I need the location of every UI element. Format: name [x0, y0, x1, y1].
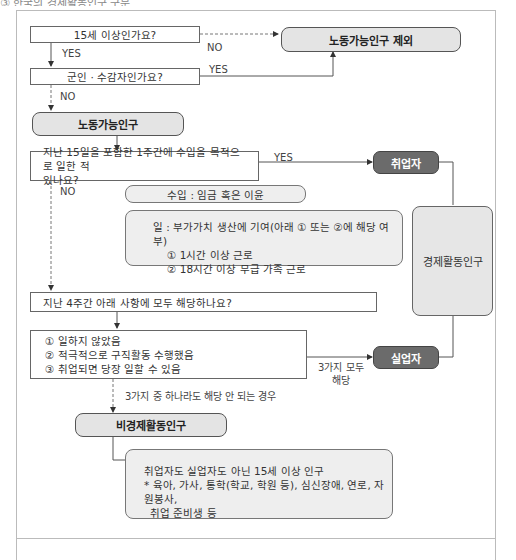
- condition-item: ② 적극적으로 구직활동 수행했음: [45, 348, 194, 362]
- note-income: 수입 : 임금 혹은 이윤: [125, 185, 306, 203]
- note-work: 일 : 부가가치 생산에 기여(아래 ① 또는 ②에 해당 여부) ① 1시간 …: [125, 210, 403, 266]
- note-income-text: 수입 : 임금 혹은 이윤: [167, 187, 264, 202]
- edge-label-all-three-line2: 해당: [318, 374, 364, 387]
- node-unemployed-label: 실업자: [391, 350, 421, 366]
- question-age: 15세 이상인가요?: [30, 26, 200, 43]
- question-worked-line1: 지난 15일을 포함한 1주간에 수입을 목적으로 일한 적: [43, 145, 246, 173]
- edge-label-no: NO: [207, 42, 222, 53]
- question-military-text: 군인 · 수감자인가요?: [67, 69, 163, 84]
- note-not-active-line3: 취업 준비생 등: [144, 506, 392, 520]
- edge-label-no: NO: [60, 91, 75, 102]
- question-worked: 지난 15일을 포함한 1주간에 수입을 목적으로 일한 적 있나요?: [30, 151, 259, 181]
- note-not-active: 취업자도 실업자도 아닌 15세 이상 인구 * 육아, 가사, 통학(학교, …: [125, 449, 393, 519]
- note-work-title: 일 : 부가가치 생산에 기여(아래 ① 또는 ②에 해당 여부): [153, 220, 402, 248]
- note-work-item: ② 18시간 이상 무급 가족 근로: [153, 262, 402, 276]
- condition-item: ③ 취업되면 당장 일할 수 있음: [45, 362, 194, 376]
- node-working-age-label: 노동가능인구: [78, 116, 138, 132]
- edge-label-all-three: 3가지 모두 해당: [318, 361, 364, 387]
- edge-label-yes: YES: [274, 152, 293, 163]
- condition-item: ① 일하지 않았음: [45, 334, 194, 348]
- note-not-active-line2: * 육아, 가사, 통학(학교, 학원 등), 심신장애, 연로, 자원봉사,: [144, 478, 392, 506]
- node-not-active-label: 비경제활동인구: [116, 417, 186, 433]
- node-not-active: 비경제활동인구: [75, 413, 227, 437]
- edge-label-all-three-line1: 3가지 모두: [318, 361, 364, 374]
- edge-label-yes: YES: [62, 48, 81, 59]
- edge-label-no: NO: [60, 186, 75, 197]
- node-economically-active: 경제활동인구: [412, 206, 493, 316]
- question-four-weeks-text: 지난 4주간 아래 사항에 모두 해당하나요?: [43, 295, 232, 310]
- edge-label-none: 3가지 중 하나라도 해당 안 되는 경우: [125, 388, 276, 403]
- node-economically-active-label: 경제활동인구: [423, 253, 483, 269]
- note-work-item: ① 1시간 이상 근로: [153, 248, 402, 262]
- question-four-weeks: 지난 4주간 아래 사항에 모두 해당하나요?: [30, 292, 377, 312]
- node-working-age: 노동가능인구: [32, 112, 184, 136]
- node-excluded-label: 노동가능인구 제외: [329, 32, 413, 48]
- node-employed-label: 취업자: [391, 155, 421, 171]
- question-age-text: 15세 이상인가요?: [74, 27, 156, 42]
- edge-label-yes: YES: [209, 64, 228, 75]
- conditions-box: ① 일하지 않았음 ② 적극적으로 구직활동 수행했음 ③ 취업되면 당장 일할…: [30, 330, 307, 379]
- node-unemployed: 실업자: [373, 346, 439, 369]
- node-excluded: 노동가능인구 제외: [281, 27, 461, 52]
- note-not-active-line1: 취업자도 실업자도 아닌 15세 이상 인구: [144, 464, 392, 478]
- frame-bottom-border: [16, 538, 496, 539]
- node-employed: 취업자: [373, 151, 439, 174]
- question-military: 군인 · 수감자인가요?: [30, 68, 200, 85]
